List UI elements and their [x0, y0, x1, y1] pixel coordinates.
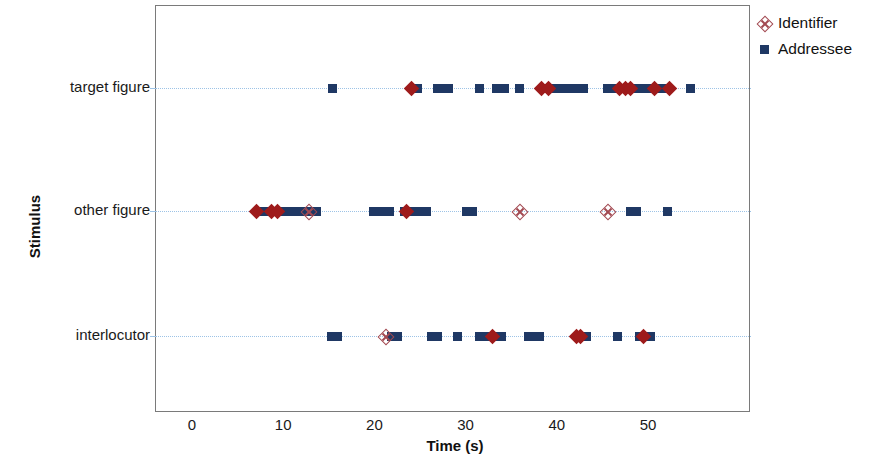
- y-axis-tick: [150, 88, 156, 89]
- chart-legend: IdentifierAddressee: [757, 10, 873, 62]
- data-point-addressee: [468, 207, 477, 216]
- data-point-addressee: [613, 332, 622, 341]
- legend-label: Identifier: [778, 14, 837, 32]
- data-point-addressee: [453, 332, 462, 341]
- scatter-chart-figure: Stimulus target figureother figureinterl…: [0, 0, 873, 464]
- data-point-addressee: [579, 84, 588, 93]
- data-point-addressee: [632, 207, 641, 216]
- data-point-addressee: [444, 84, 453, 93]
- x-axis-tick-label: 10: [263, 416, 303, 433]
- data-point-addressee: [422, 207, 431, 216]
- y-axis-category-labels: target figureother figureinterlocutor: [0, 0, 150, 464]
- plot-area: [155, 5, 750, 412]
- x-axis-tick-label: 20: [354, 416, 394, 433]
- data-point-addressee: [475, 84, 484, 93]
- data-point-addressee: [385, 207, 394, 216]
- x-axis-tick-label: 30: [446, 416, 486, 433]
- data-point-identifier: [600, 204, 617, 221]
- data-point-addressee: [686, 84, 695, 93]
- y-axis-category-label: other figure: [74, 201, 150, 218]
- x-axis-tick-label: 0: [172, 416, 212, 433]
- legend-item: Addressee: [757, 36, 873, 62]
- data-point-addressee: [663, 207, 672, 216]
- marker-glyph: [760, 45, 769, 54]
- y-axis-category-label: target figure: [70, 78, 150, 95]
- marker-glyph: [757, 16, 774, 33]
- x-axis-title: Time (s): [345, 437, 565, 454]
- legend-item: Identifier: [757, 10, 873, 36]
- y-axis-tick: [150, 211, 156, 212]
- x-axis-tick-label: 40: [537, 416, 577, 433]
- y-axis-category-label: interlocutor: [76, 326, 150, 343]
- data-point-identifier: [512, 204, 529, 221]
- x-axis-tick-label: 50: [628, 416, 668, 433]
- legend-label: Addressee: [778, 40, 852, 58]
- data-point-addressee: [328, 84, 337, 93]
- y-axis-tick: [150, 336, 156, 337]
- data-point-addressee: [515, 84, 524, 93]
- data-point-addressee: [333, 332, 342, 341]
- data-point-addressee: [500, 84, 509, 93]
- data-point-addressee: [433, 332, 442, 341]
- square-marker-icon: [757, 42, 771, 56]
- data-point-addressee: [535, 332, 544, 341]
- diamond-marker-icon: [757, 16, 771, 30]
